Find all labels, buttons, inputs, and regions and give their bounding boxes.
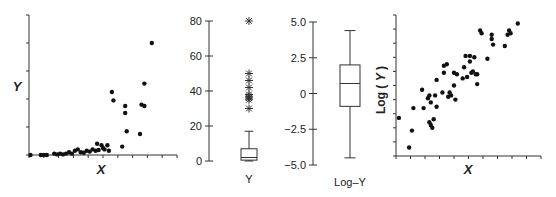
data-point xyxy=(490,37,494,41)
iqr-box xyxy=(241,149,257,160)
data-point xyxy=(485,57,489,61)
right-x-axis-label: X xyxy=(463,162,474,177)
data-point xyxy=(28,153,32,157)
data-point xyxy=(475,72,479,76)
left-y-axis-label: Y xyxy=(13,79,23,94)
y-tick-label: 40 xyxy=(190,85,202,97)
left-axes xyxy=(26,15,177,158)
data-point xyxy=(123,111,127,115)
outlier-asterisk-icon xyxy=(245,84,253,92)
y-tick-label: −5.0 xyxy=(284,159,306,171)
boxLog-category-label: Log–Y xyxy=(334,176,366,188)
boxY-y-ticks: 806040200 xyxy=(190,15,213,167)
y-tick-label: 0 xyxy=(196,155,202,167)
data-point xyxy=(120,144,124,148)
data-point xyxy=(111,98,115,102)
y-tick-label: 5.0 xyxy=(291,16,306,28)
y-tick-label: 20 xyxy=(190,120,202,132)
boxLog-y-ticks: 5.02.50−2.5−5.0 xyxy=(284,16,317,171)
scatter-x-vs-y: X Y xyxy=(13,15,177,177)
data-point xyxy=(420,88,424,92)
y-tick-label: 0 xyxy=(300,88,306,100)
data-point xyxy=(440,90,444,94)
chart-canvas: X Y 806040200 Y 5.02.50−2.5−5.0 Log–Y X … xyxy=(0,0,556,197)
data-point xyxy=(472,55,476,59)
data-point xyxy=(95,142,99,146)
data-point xyxy=(468,59,472,63)
data-point xyxy=(411,106,415,110)
data-point xyxy=(479,31,483,35)
data-point xyxy=(462,65,466,69)
data-point xyxy=(125,129,129,133)
data-point xyxy=(491,42,495,46)
data-point xyxy=(433,93,437,97)
left-x-axis-label: X xyxy=(96,162,107,177)
data-point xyxy=(490,33,494,37)
data-point xyxy=(96,148,100,152)
data-point xyxy=(445,62,449,66)
data-point xyxy=(503,44,507,48)
outlier-asterisk-icon xyxy=(245,91,253,99)
data-point xyxy=(468,54,472,58)
data-point xyxy=(516,21,520,25)
data-point xyxy=(407,145,411,149)
data-point xyxy=(421,106,425,110)
data-point xyxy=(410,128,414,132)
y-tick-label: 60 xyxy=(190,50,202,62)
right-data-points xyxy=(397,21,520,149)
data-point xyxy=(102,147,106,151)
data-point xyxy=(452,83,456,87)
data-point xyxy=(429,100,433,104)
outlier-asterisk-icon xyxy=(245,77,253,85)
data-point xyxy=(463,54,467,58)
boxY-category-label: Y xyxy=(245,173,253,185)
y-tick-label: −2.5 xyxy=(284,123,306,135)
data-point xyxy=(105,143,109,147)
data-point xyxy=(430,126,434,130)
data-point xyxy=(427,93,431,97)
data-point xyxy=(123,104,127,108)
data-point xyxy=(508,31,512,35)
data-point xyxy=(142,104,146,108)
data-point xyxy=(475,82,479,86)
y-tick-label: 80 xyxy=(190,15,202,27)
data-point xyxy=(434,105,438,109)
outlier-asterisk-icon xyxy=(245,17,253,25)
boxplot-y: 806040200 Y xyxy=(190,15,257,185)
right-axes xyxy=(393,15,541,159)
data-point xyxy=(455,72,459,76)
data-point xyxy=(449,93,453,97)
iqr-box xyxy=(340,65,360,106)
boxY-outlier-asterisks xyxy=(245,17,253,113)
data-point xyxy=(442,71,446,75)
outlier-asterisk-icon xyxy=(245,105,253,113)
data-point xyxy=(465,75,469,79)
data-point xyxy=(107,149,111,153)
data-point xyxy=(150,41,154,45)
left-data-points xyxy=(28,41,154,157)
data-point xyxy=(453,97,457,101)
data-point xyxy=(138,132,142,136)
boxY-box-whisker xyxy=(241,131,257,161)
data-point xyxy=(45,153,49,157)
outlier-asterisk-icon xyxy=(245,70,253,78)
data-point xyxy=(432,117,436,121)
boxLog-box-whisker xyxy=(340,31,360,158)
data-point xyxy=(110,90,114,94)
scatter-x-vs-log-y: X Log ( Y ) xyxy=(374,15,541,177)
data-point xyxy=(397,116,401,120)
data-point xyxy=(142,81,146,85)
y-tick-label: 2.5 xyxy=(291,52,306,64)
right-y-axis-label: Log ( Y ) xyxy=(374,66,388,114)
data-point xyxy=(461,76,465,80)
boxplot-log-y: 5.02.50−2.5−5.0 Log–Y xyxy=(284,16,366,188)
data-point xyxy=(434,78,438,82)
